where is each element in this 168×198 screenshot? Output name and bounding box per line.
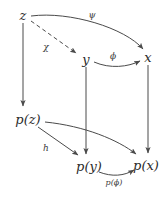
node-p-of-z: p(z)	[15, 113, 40, 126]
edge-py-to-px-path	[99, 170, 134, 175]
node-p-of-y: p(y)	[76, 160, 102, 173]
edge-label-h: h	[43, 144, 49, 153]
node-p-of-x: p(x)	[133, 159, 159, 172]
edge-label-phi: ϕ	[110, 52, 116, 61]
node-y: y	[82, 53, 89, 66]
edge-label-p-phi: p(ϕ)	[106, 179, 123, 187]
node-z: z	[20, 9, 27, 22]
edge-y-to-x-path	[94, 61, 140, 66]
edge-z-to-y-path	[31, 21, 76, 53]
node-x: x	[144, 51, 151, 64]
edge-pz-to-px-path	[45, 122, 136, 154]
edge-label-chi: χ	[43, 43, 48, 52]
edge-label-psi: ψ	[88, 11, 95, 20]
commutative-diagram: y (dashed, chi) --> x (curved, psi) --> …	[0, 0, 168, 198]
